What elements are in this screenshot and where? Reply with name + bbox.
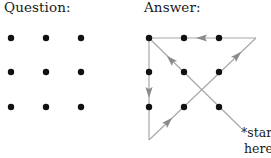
dot — [43, 69, 49, 75]
dot — [8, 69, 14, 75]
dot — [181, 69, 187, 75]
start-label: *start — [241, 127, 271, 140]
dot — [216, 104, 222, 110]
dot — [8, 104, 14, 110]
dot — [43, 35, 49, 41]
dot — [181, 35, 187, 41]
dot — [146, 69, 152, 75]
dot — [78, 69, 84, 75]
dot — [216, 35, 222, 41]
dot — [43, 104, 49, 110]
dot — [181, 104, 187, 110]
dot — [146, 104, 152, 110]
question-dot-grid — [8, 35, 84, 110]
nine-dots-diagram — [0, 0, 271, 158]
dot — [146, 35, 152, 41]
dot — [78, 35, 84, 41]
dot — [78, 104, 84, 110]
path-line — [149, 38, 241, 128]
dot — [8, 35, 14, 41]
here-label: here — [244, 143, 271, 156]
dot — [216, 69, 222, 75]
